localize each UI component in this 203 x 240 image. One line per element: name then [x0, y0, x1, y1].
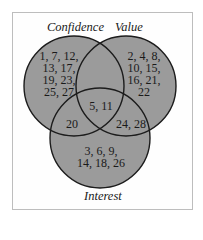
region-all-three: 5, 11 — [84, 100, 118, 112]
region-value-interest: 24, 28 — [111, 118, 151, 130]
region-confidence-interest: 20 — [60, 118, 84, 130]
region-value-only: 2, 4, 8, 10, 15, 16, 21, 22 — [118, 50, 170, 98]
region-interest-only: 3, 6, 9, 14, 18, 26 — [70, 145, 132, 169]
value-label: Value — [115, 21, 143, 34]
interest-label: Interest — [84, 190, 122, 203]
confidence-label: Confidence — [47, 21, 104, 34]
region-confidence-only: 1, 7, 12, 13, 17, 19, 23, 25, 27 — [33, 50, 85, 98]
